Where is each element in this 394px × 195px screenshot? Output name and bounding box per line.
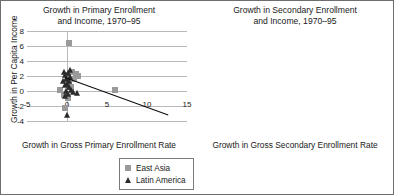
x-axis-label-secondary: Growth in Gross Secondary Enrollment Rat… — [197, 140, 393, 150]
gridline — [27, 121, 187, 122]
gridline — [27, 46, 187, 47]
chart-panel-secondary: Growth in Secondary Enrollment and Incom… — [197, 1, 393, 194]
x-axis-label-primary: Growth in Gross Primary Enrollment Rate — [1, 140, 197, 150]
data-point-east-asia — [112, 87, 118, 93]
x-tick-label: -5 — [23, 100, 30, 109]
gridline — [27, 61, 187, 62]
chart-title-secondary: Growth in Secondary Enrollment and Incom… — [197, 5, 393, 27]
data-point-east-asia — [66, 40, 72, 46]
data-point-latin-america — [62, 93, 68, 99]
y-axis-label-primary: Growth in Per Capita Income — [9, 15, 19, 123]
data-point-latin-america — [67, 67, 73, 73]
y-tick-label: 6 — [20, 42, 24, 51]
square-marker-icon — [125, 165, 131, 171]
data-point-latin-america — [64, 112, 70, 118]
gridline — [27, 76, 187, 77]
y-tick-label: 8 — [20, 27, 24, 36]
legend-primary: East Asia Latin America — [119, 158, 194, 190]
gridline — [27, 31, 187, 32]
y-tick-label: 2 — [20, 72, 24, 81]
y-tick-label: 0 — [20, 87, 24, 96]
figure-container: Growth in Primary Enrollment and Income,… — [0, 0, 394, 195]
data-point-latin-america — [74, 89, 80, 95]
legend-item-latin-america: Latin America — [125, 174, 186, 186]
plot-area-primary: 86420-2-4-5051015 — [27, 31, 187, 121]
chart-title-primary: Growth in Primary Enrollment and Income,… — [1, 5, 197, 27]
x-tick-label: 15 — [183, 100, 192, 109]
chart-panel-primary: Growth in Primary Enrollment and Income,… — [1, 1, 197, 194]
data-point-east-asia — [62, 105, 68, 111]
legend-label-east-asia: East Asia — [136, 164, 170, 173]
triangle-marker-icon — [125, 177, 131, 183]
x-tick-label: 5 — [105, 100, 109, 109]
y-tick-label: 4 — [20, 57, 24, 66]
legend-label-latin-america: Latin America — [136, 176, 186, 185]
legend-item-east-asia: East Asia — [125, 162, 186, 174]
